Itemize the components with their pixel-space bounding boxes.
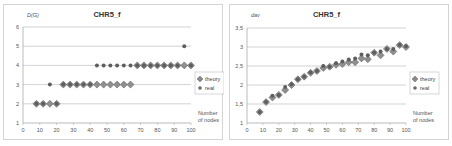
legend: theoryreal xyxy=(195,72,224,94)
x-tick-label: 80 xyxy=(371,127,377,133)
legend-marker-circle xyxy=(198,86,202,90)
data-point-real xyxy=(122,63,126,67)
data-point-real xyxy=(372,51,376,55)
data-point-real xyxy=(155,63,159,67)
data-point-real xyxy=(340,59,344,63)
data-point-real xyxy=(347,58,351,62)
data-point-real xyxy=(108,63,112,67)
y-tick-label: 2 xyxy=(240,82,243,88)
data-point-real xyxy=(48,83,52,87)
data-point-real xyxy=(88,83,92,87)
x-tick-label: 100 xyxy=(401,127,410,133)
data-point-theory xyxy=(127,81,134,88)
y-tick-label: 1,5 xyxy=(235,101,243,107)
data-point-real xyxy=(296,77,300,81)
data-point-real xyxy=(162,63,166,67)
data-point-theory xyxy=(93,81,100,88)
legend-label-real: real xyxy=(420,85,429,91)
legend-label-theory: theory xyxy=(205,76,221,82)
x-axis-label-line2: of nodes xyxy=(413,117,434,123)
data-point-real xyxy=(41,102,45,106)
x-tick-label: 70 xyxy=(355,127,361,133)
y-tick-label: 3,5 xyxy=(235,25,243,31)
x-tick-label: 0 xyxy=(245,127,248,133)
data-point-real xyxy=(379,50,383,54)
x-tick-label: 10 xyxy=(260,127,266,133)
x-tick-label: 30 xyxy=(292,127,298,133)
y-tick-label: 3 xyxy=(240,44,243,50)
data-point-real xyxy=(404,44,408,48)
x-tick-label: 20 xyxy=(54,127,60,133)
data-point-theory xyxy=(46,100,53,107)
y-tick-label: 1 xyxy=(240,120,243,126)
data-point-theory xyxy=(120,81,127,88)
x-axis-label-line1: Number xyxy=(198,110,218,116)
legend-label-real: real xyxy=(205,85,214,91)
data-point-real xyxy=(359,53,363,57)
data-point-real xyxy=(315,69,319,73)
data-point-theory xyxy=(114,81,121,88)
y-tick-label: 2 xyxy=(16,101,19,107)
chart-panel-left: 1234560102030405060708090100CHR5_fD(G)Nu… xyxy=(3,4,223,140)
data-point-real xyxy=(75,83,79,87)
x-tick-label: 10 xyxy=(37,127,43,133)
chart-left: 1234560102030405060708090100CHR5_fD(G)Nu… xyxy=(4,5,224,141)
y-tick-label: 4 xyxy=(16,62,19,68)
data-point-real xyxy=(283,85,287,89)
y-axis-label: dav xyxy=(251,12,261,18)
data-point-real xyxy=(353,56,357,60)
x-tick-label: 100 xyxy=(186,127,195,133)
data-point-theory xyxy=(107,81,114,88)
y-tick-label: 5 xyxy=(16,43,19,49)
legend-label-theory: theory xyxy=(420,76,436,82)
y-tick-label: 6 xyxy=(16,24,19,30)
chart-title: CHR5_f xyxy=(93,10,121,19)
data-point-real xyxy=(142,63,146,67)
x-tick-label: 80 xyxy=(154,127,160,133)
data-point-real xyxy=(135,63,139,67)
data-point-real xyxy=(176,63,180,67)
x-tick-label: 50 xyxy=(104,127,110,133)
x-tick-label: 0 xyxy=(21,127,24,133)
data-point-real xyxy=(182,44,186,48)
data-point-real xyxy=(81,83,85,87)
data-point-real xyxy=(61,83,65,87)
y-tick-label: 3 xyxy=(16,82,19,88)
y-axis-label: D(G) xyxy=(27,12,39,18)
x-tick-label: 90 xyxy=(171,127,177,133)
data-point-real xyxy=(309,70,313,74)
data-point-real xyxy=(149,63,153,67)
data-point-real xyxy=(366,53,370,57)
chart-panel-right: 11,522,533,50102030405060708090100CHR5_f… xyxy=(229,4,449,140)
data-point-real xyxy=(55,102,59,106)
data-point-real xyxy=(334,61,338,65)
legend-marker-circle xyxy=(413,86,417,90)
data-point-real xyxy=(328,65,332,69)
data-point-real xyxy=(302,75,306,79)
data-point-real xyxy=(115,63,119,67)
data-point-theory xyxy=(181,62,188,69)
legend: theoryreal xyxy=(410,72,439,94)
data-point-real xyxy=(277,93,281,97)
x-tick-label: 60 xyxy=(121,127,127,133)
x-axis-label: Numberof nodes xyxy=(413,110,434,123)
data-point-real xyxy=(385,47,389,51)
x-tick-label: 20 xyxy=(276,127,282,133)
data-point-real xyxy=(102,63,106,67)
data-point-real xyxy=(398,43,402,47)
y-tick-label: 2,5 xyxy=(235,63,243,69)
x-tick-label: 40 xyxy=(87,127,93,133)
data-point-real xyxy=(391,47,395,51)
x-tick-label: 90 xyxy=(387,127,393,133)
data-point-real xyxy=(129,63,133,67)
x-axis-label: Numberof nodes xyxy=(198,110,219,123)
data-point-real xyxy=(258,110,262,114)
chart-right: 11,522,533,50102030405060708090100CHR5_f… xyxy=(230,5,450,141)
x-tick-label: 50 xyxy=(323,127,329,133)
data-point-real xyxy=(270,94,274,98)
x-tick-label: 60 xyxy=(339,127,345,133)
data-point-real xyxy=(264,100,268,104)
data-point-real xyxy=(321,64,325,68)
x-tick-label: 30 xyxy=(70,127,76,133)
x-tick-label: 40 xyxy=(308,127,314,133)
